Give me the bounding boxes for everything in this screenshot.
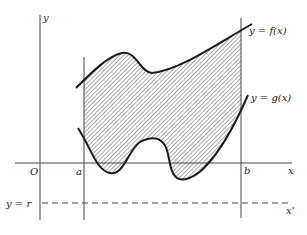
a-label: a — [76, 166, 82, 177]
y-axis-label: y — [42, 12, 49, 23]
g-curve-label: y = g(x) — [250, 92, 291, 103]
hatched-region — [76, 24, 252, 180]
y-equals-r-label: y = r — [5, 198, 32, 209]
x-axis-label: x — [288, 165, 294, 176]
origin-label: O — [30, 166, 38, 177]
f-curve-label: y = f(x) — [248, 25, 287, 36]
x-prime-label: x' — [286, 205, 294, 216]
b-label: b — [244, 165, 250, 176]
area-between-curves-diagram: y x O a b x' y = r y = f(x) y = g(x) — [0, 0, 307, 235]
